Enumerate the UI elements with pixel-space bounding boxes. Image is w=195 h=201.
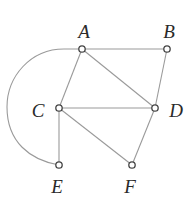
node-label-e: E: [51, 177, 63, 196]
node-label-b: B: [163, 22, 175, 41]
node-c: [56, 105, 62, 111]
edge-b-d: [155, 49, 167, 108]
node-e: [56, 162, 62, 168]
edge-d-f: [132, 108, 155, 165]
node-b: [164, 46, 170, 52]
node-f: [129, 162, 135, 168]
edge-c-f: [59, 108, 132, 165]
edge-a-d: [82, 49, 155, 108]
node-label-f: F: [124, 177, 136, 196]
node-label-c: C: [32, 101, 45, 120]
node-d: [152, 105, 158, 111]
node-label-d: D: [169, 101, 183, 120]
edge-a-c: [59, 49, 82, 108]
node-a: [79, 46, 85, 52]
node-label-a: A: [78, 22, 90, 41]
